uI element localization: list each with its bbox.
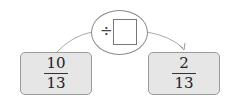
left-connector xyxy=(57,32,92,52)
result-value-box: 2 13 xyxy=(148,52,220,95)
start-value-box: 10 13 xyxy=(20,52,92,95)
start-numerator: 10 xyxy=(46,56,65,71)
right-connector xyxy=(147,32,183,48)
start-fraction: 10 13 xyxy=(44,56,68,91)
start-denominator: 13 xyxy=(46,76,65,91)
operand-blank-box[interactable] xyxy=(113,19,137,45)
result-numerator: 2 xyxy=(179,56,189,71)
result-fraction: 2 13 xyxy=(172,56,196,91)
divide-symbol: ÷ xyxy=(100,22,113,40)
result-denominator: 13 xyxy=(174,76,193,91)
